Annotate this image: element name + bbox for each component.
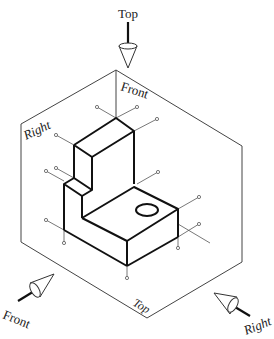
top-view-arrow: Top xyxy=(118,6,138,68)
right-view-arrow: Right xyxy=(214,293,274,338)
front-arrow-label: Front xyxy=(1,307,33,332)
front-view-arrow: Front xyxy=(1,274,54,331)
back-plane-label: Front xyxy=(119,79,151,102)
hole xyxy=(136,204,158,216)
glass-box xyxy=(21,70,242,318)
top-arrow-label: Top xyxy=(118,6,138,21)
left-plane-label: Right xyxy=(20,117,53,143)
bottom-plane-label: Top xyxy=(131,295,153,316)
object-part xyxy=(64,118,178,266)
right-arrow-label: Right xyxy=(241,313,274,338)
glass-box-diagram: Front Right Top Top Front Right xyxy=(0,0,274,339)
